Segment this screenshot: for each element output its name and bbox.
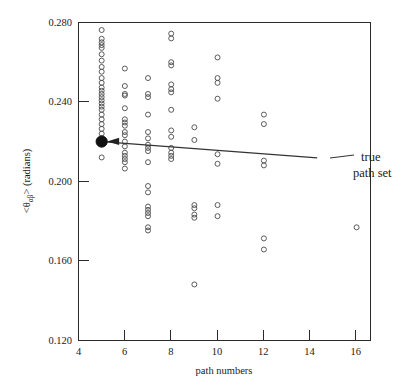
data-point	[146, 160, 151, 165]
data-point	[169, 157, 174, 162]
data-point	[99, 64, 104, 69]
chart-figure: 0.280 0.240 0.200 0.160 0.120 4 6 8 10 1…	[0, 0, 408, 389]
true-path-set-point	[96, 136, 107, 147]
data-point	[99, 107, 104, 112]
data-point	[146, 130, 151, 135]
data-point	[169, 31, 174, 36]
data-point	[99, 58, 104, 63]
data-point	[146, 149, 151, 154]
data-point	[99, 155, 104, 160]
data-point	[146, 112, 151, 117]
data-point	[261, 236, 266, 241]
data-point	[146, 184, 151, 189]
plot-frame	[79, 23, 371, 341]
data-point	[169, 145, 174, 150]
data-point	[215, 214, 220, 219]
data-point	[146, 76, 151, 81]
y-axis-label-suffix: > (radians)	[21, 148, 33, 194]
data-point	[215, 76, 220, 81]
data-point	[99, 69, 104, 74]
data-point	[146, 136, 151, 141]
y-tick-label: 0.120	[48, 335, 72, 346]
data-point	[192, 137, 197, 142]
data-point	[99, 122, 104, 127]
data-point	[261, 122, 266, 127]
scatter-points-layer	[99, 28, 359, 287]
data-point	[99, 117, 104, 122]
data-point	[99, 80, 104, 85]
y-axis-ticks	[79, 23, 90, 341]
data-point	[122, 84, 127, 89]
data-point	[122, 144, 127, 149]
y-axis-tick-labels: 0.280 0.240 0.200 0.160 0.120	[48, 17, 72, 346]
x-tick-label: 14	[304, 346, 315, 357]
data-point	[122, 123, 127, 128]
data-point	[169, 90, 174, 95]
data-point	[169, 134, 174, 139]
y-tick-label: 0.280	[48, 17, 72, 28]
data-point	[122, 133, 127, 138]
data-point	[99, 131, 104, 136]
x-axis-tick-labels: 4 6 8 10 12 14 16	[76, 346, 361, 357]
data-point	[169, 107, 174, 112]
true-path-set-trendline	[105, 142, 317, 158]
x-tick-label: 12	[258, 346, 269, 357]
data-point	[99, 76, 104, 81]
data-point	[215, 80, 220, 85]
y-axis-label-prefix: <θ	[21, 202, 32, 213]
data-point	[146, 95, 151, 100]
data-point	[146, 214, 151, 219]
y-tick-label: 0.160	[48, 255, 72, 266]
data-point	[122, 160, 127, 165]
data-point	[122, 66, 127, 71]
data-point	[261, 163, 266, 168]
data-point	[192, 282, 197, 287]
y-tick-label: 0.200	[48, 176, 72, 187]
data-point	[215, 152, 220, 157]
y-axis-label-subscript: αβ	[26, 194, 35, 202]
data-point	[99, 112, 104, 117]
data-point	[146, 228, 151, 233]
data-point	[215, 203, 220, 208]
y-axis-label: <θαβ> (radians)	[21, 148, 35, 213]
data-point	[215, 96, 220, 101]
data-point	[146, 190, 151, 195]
data-point	[169, 128, 174, 133]
data-point	[261, 158, 266, 163]
x-tick-label: 4	[76, 346, 82, 357]
data-point	[192, 215, 197, 220]
scatter-plot-svg: 0.280 0.240 0.200 0.160 0.120 4 6 8 10 1…	[0, 0, 408, 389]
data-point	[122, 106, 127, 111]
x-axis-ticks	[79, 330, 356, 340]
data-point	[192, 206, 197, 211]
data-point	[99, 126, 104, 131]
annotation-true: true	[361, 150, 381, 164]
annotation-leader-line	[330, 155, 354, 158]
data-point	[261, 247, 266, 252]
data-point	[99, 28, 104, 33]
data-point	[261, 112, 266, 117]
data-point	[99, 52, 104, 57]
data-point	[354, 225, 359, 230]
y-tick-label: 0.240	[48, 96, 72, 107]
x-tick-label: 16	[350, 346, 361, 357]
data-point	[192, 125, 197, 130]
x-tick-label: 8	[168, 346, 173, 357]
x-tick-label: 6	[122, 346, 127, 357]
annotation-path-set: path set	[353, 166, 392, 180]
x-axis-label: path numbers	[196, 365, 253, 376]
data-point	[122, 166, 127, 171]
x-tick-label: 10	[212, 346, 223, 357]
svg-text:<θαβ> (radians): <θαβ> (radians)	[21, 148, 35, 213]
data-point	[169, 36, 174, 41]
data-point	[169, 82, 174, 87]
data-point	[215, 161, 220, 166]
data-point	[215, 55, 220, 60]
data-point	[169, 63, 174, 68]
arrow-head-icon	[107, 138, 119, 145]
